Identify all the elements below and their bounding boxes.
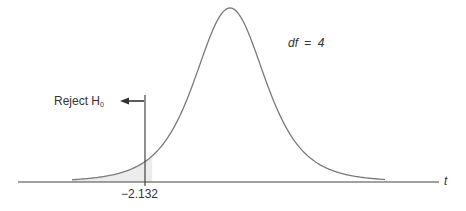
- df-eq: =: [304, 36, 311, 50]
- df-value: 4: [318, 36, 325, 50]
- reject-arrow-head-icon: [120, 98, 129, 105]
- t-distribution-curve: [72, 8, 385, 180]
- df-var: df: [288, 36, 298, 50]
- df-label: df = 4: [288, 36, 324, 50]
- reject-text: Reject H: [54, 94, 100, 108]
- reject-subscript: 0: [100, 101, 104, 108]
- reject-h0-label: Reject H0: [54, 94, 104, 108]
- t-axis-label: t: [444, 174, 447, 188]
- rejection-region-shade: [72, 156, 152, 182]
- critical-value-label: −2.132: [121, 187, 158, 201]
